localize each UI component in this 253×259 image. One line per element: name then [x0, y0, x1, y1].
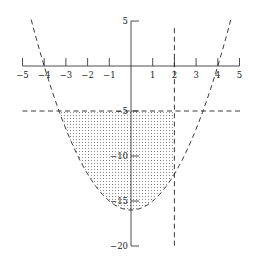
- y-tick-label: −5: [115, 106, 128, 116]
- x-tick-label: 3: [193, 70, 198, 80]
- y-tick-label: −15: [110, 196, 128, 206]
- x-tick-label: −4: [38, 70, 51, 80]
- chart: −5−4−3−2−1123455−5−10−15−20: [0, 0, 253, 259]
- y-tick-label: −20: [110, 241, 128, 251]
- x-tick-label: 1: [150, 70, 155, 80]
- x-tick-label: 5: [237, 70, 242, 80]
- x-tick-label: −2: [81, 70, 94, 80]
- y-tick-label: −10: [110, 151, 128, 161]
- x-tick-label: −1: [103, 70, 116, 80]
- y-tick-label: 5: [123, 16, 128, 26]
- x-tick-label: 2: [172, 70, 177, 80]
- x-tick-label: 4: [215, 70, 220, 80]
- x-tick-label: −5: [16, 70, 29, 80]
- x-tick-label: −3: [60, 70, 73, 80]
- axes: [23, 21, 240, 246]
